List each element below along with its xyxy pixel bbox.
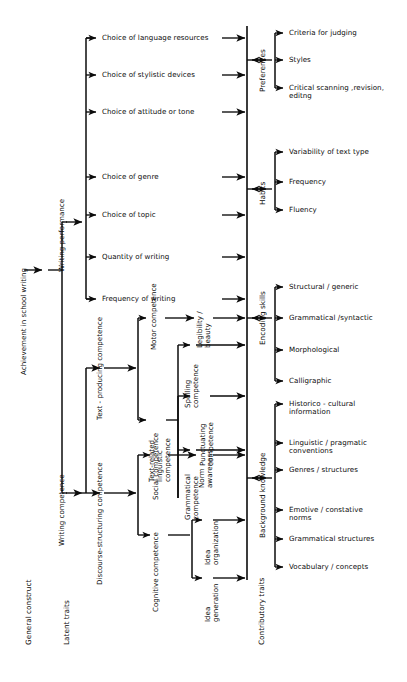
performance-item-6: Frequency of writing — [102, 295, 175, 303]
encoding-skills-item-0: Structural / generic — [289, 283, 359, 291]
node-idea-organization: Idea organization — [204, 503, 220, 565]
background-knowledge-item-2: Genres / structures — [289, 466, 358, 474]
node-social-competence: Social competence — [152, 433, 160, 500]
node-writing-performance: Writing performance — [58, 199, 66, 272]
performance-item-2: Choice of attitude or tone — [102, 108, 194, 116]
preferences-item-1: Styles — [289, 56, 311, 64]
encoding-skills-item-1: Grammatical /syntactic — [289, 314, 373, 322]
preferences-item-2: Critical scanning ,revision, editng — [289, 84, 384, 101]
background-knowledge-item-0: Historico - cultural information — [289, 400, 355, 417]
group-label-encoding-skills: Encoding skills — [258, 291, 267, 345]
background-knowledge-item-3: Emotive / constative norms — [289, 506, 363, 523]
performance-item-0: Choice of language resources — [102, 34, 208, 42]
group-label-background-knowledge: Background knowledge — [258, 453, 267, 538]
background-knowledge-item-5: Vocabulary / concepts — [289, 563, 368, 571]
habits-item-1: Frequency — [289, 178, 326, 186]
node-text-producing-competence: Text - producing competence — [96, 317, 104, 420]
node-writing-competence: Writing competence — [58, 474, 66, 546]
node-idea-generation: Idea generation — [204, 566, 220, 622]
node-motor-competence: Motor competence — [150, 283, 158, 350]
group-label-preferences: Preferences — [258, 49, 267, 92]
performance-item-1: Choice of stylistic devices — [102, 71, 195, 79]
diagram-canvas: General construct Latent traits Contribu… — [0, 0, 407, 682]
root-node-achievement: Achievement in school writing — [20, 268, 28, 375]
habits-item-0: Variability of text type — [289, 148, 369, 156]
encoding-skills-item-3: Calligraphic — [289, 377, 331, 385]
node-discourse-structuring-competence: Discourse-structuring competence — [96, 462, 104, 585]
column-label-contributory-traits: Contributory traits — [257, 578, 266, 645]
encoding-skills-item-2: Morphological — [289, 346, 339, 354]
performance-item-3: Choice of genre — [102, 173, 159, 181]
habits-item-2: Fluency — [289, 206, 317, 214]
performance-item-5: Quantity of writing — [102, 253, 169, 261]
preferences-item-0: Criteria for judging — [289, 29, 357, 37]
background-knowledge-item-4: Grammatical structures — [289, 535, 374, 543]
background-knowledge-item-1: Linguistic / pragmatic conventions — [289, 439, 367, 456]
group-label-habits: Habits — [258, 182, 267, 205]
node-norm-awareness: Norm awareness — [198, 440, 214, 488]
node-legibility-beauty: Legibility / beauty — [196, 296, 212, 348]
performance-item-4: Choice of topic — [102, 211, 156, 219]
node-cognitive-competence: Cognitive competence — [152, 532, 160, 612]
node-spelling-competence: Spelling competence — [184, 348, 200, 408]
column-label-general-construct: General construct — [24, 580, 33, 645]
column-label-latent-traits: Latent traits — [62, 600, 71, 645]
